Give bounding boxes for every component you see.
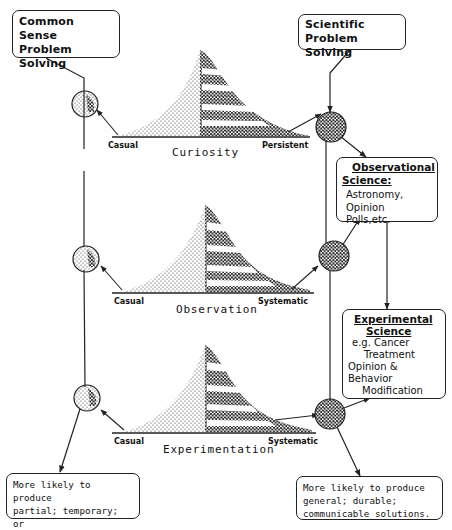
curiosity-title: Curiosity — [172, 146, 239, 159]
scientific-node-curiosity — [316, 112, 346, 142]
observation-curve — [112, 205, 314, 293]
scientific-outcome-box: More likely to produce general; durable;… — [296, 476, 443, 520]
outcome-left-line-2: partial; temporary; or — [13, 504, 133, 530]
observational-example-1: Astronomy, — [342, 189, 432, 202]
curiosity-right-label: Persistent — [262, 141, 308, 150]
experimental-example-1: e.g. Cancer — [348, 337, 440, 349]
common-sense-box: Common Sense Problem Solving — [12, 10, 120, 58]
observational-heading: Observational — [342, 161, 432, 174]
outcome-left-line-1: More likely to produce — [13, 478, 133, 504]
scientific-label-2: Problem Solving — [305, 32, 399, 60]
outcome-right-line-2: general; durable; — [303, 494, 436, 507]
common-sense-label-2: Problem Solving — [19, 43, 113, 71]
outcome-right-line-1: More likely to produce — [303, 481, 436, 494]
observational-science-box: Observational Science: Astronomy, Opinio… — [336, 157, 438, 222]
outcome-right-line-3: communicable solutions. — [303, 507, 436, 520]
experimental-example-3: Opinion & Behavior — [348, 361, 440, 385]
experimentation-title: Experimentation — [163, 443, 274, 456]
curiosity-left-label: Casual — [108, 141, 138, 150]
experimental-example-4: Modification — [348, 385, 440, 397]
common-sense-node-curiosity — [72, 91, 98, 117]
curiosity-curve — [112, 50, 310, 137]
scientific-node-observation — [319, 241, 349, 271]
observation-left-label: Casual — [114, 297, 144, 306]
common-sense-node-observation — [73, 246, 99, 272]
observational-heading-2: Science: — [342, 174, 432, 187]
observation-title: Observation — [176, 303, 258, 316]
experimental-heading: Experimental — [348, 313, 440, 325]
experimental-science-box: Experimental Science e.g. Cancer Treatme… — [342, 309, 446, 399]
experimentation-right-label: Systematic — [268, 437, 318, 446]
scientific-label: Scientific — [305, 18, 399, 32]
scientific-box: Scientific Problem Solving — [298, 14, 406, 50]
common-sense-outcome-box: More likely to produce partial; temporar… — [6, 473, 140, 519]
experimentation-left-label: Casual — [114, 437, 144, 446]
observation-right-label: Systematic — [258, 297, 308, 306]
common-sense-label: Common Sense — [19, 15, 113, 43]
experimental-heading-2: Science — [348, 325, 440, 337]
experimental-example-2: Treatment — [348, 349, 440, 361]
experimentation-curve — [112, 345, 316, 433]
scientific-node-experimentation — [315, 399, 345, 429]
common-sense-node-experimentation — [74, 385, 100, 411]
observational-example-2: Opinion Polls,etc. — [342, 202, 432, 227]
